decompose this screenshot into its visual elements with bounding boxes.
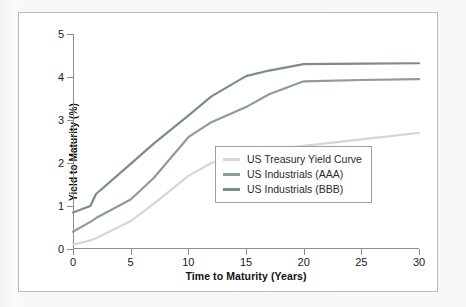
x-tick-label-30: 30: [413, 257, 425, 268]
x-tick-10: [188, 249, 189, 255]
y-tick-label-3: 3: [58, 115, 64, 126]
x-tick-20: [304, 249, 305, 255]
x-tick-30: [419, 249, 420, 255]
legend-label-2: US Industrials (AAA): [247, 169, 343, 180]
y-tick-label-4: 4: [58, 72, 64, 83]
y-tick-label-5: 5: [58, 29, 64, 40]
legend-label-3: US Industrials (BBB): [247, 184, 343, 195]
x-tick-5: [131, 249, 132, 255]
x-tick-label-5: 5: [128, 257, 134, 268]
chart-legend: US Treasury Yield CurveUS Industrials (A…: [215, 146, 372, 203]
series-lines: [73, 34, 419, 249]
x-axis-title: Time to Maturity (Years): [73, 270, 419, 282]
page-background: Yield to Maturity (%) Time to Maturity (…: [0, 0, 466, 307]
y-tick-label-0: 0: [58, 244, 64, 255]
legend-item-2: US Industrials (AAA): [223, 167, 362, 182]
y-tick-label-1: 1: [58, 201, 64, 212]
x-tick-25: [361, 249, 362, 255]
x-tick-label-20: 20: [298, 257, 310, 268]
plot-area: 012345 051015202530: [73, 34, 419, 249]
x-tick-label-0: 0: [70, 257, 76, 268]
y-tick-label-2: 2: [58, 158, 64, 169]
legend-label-1: US Treasury Yield Curve: [247, 154, 362, 165]
chart-card: Yield to Maturity (%) Time to Maturity (…: [18, 12, 438, 292]
x-tick-label-25: 25: [355, 257, 367, 268]
legend-item-1: US Treasury Yield Curve: [223, 152, 362, 167]
x-tick-0: [73, 249, 74, 255]
legend-item-3: US Industrials (BBB): [223, 182, 362, 197]
x-tick-15: [246, 249, 247, 255]
legend-swatch-icon-1: [223, 158, 240, 161]
legend-swatch-icon-2: [223, 173, 240, 176]
legend-swatch-icon-3: [223, 188, 240, 191]
x-tick-label-10: 10: [182, 257, 194, 268]
x-tick-label-15: 15: [240, 257, 252, 268]
